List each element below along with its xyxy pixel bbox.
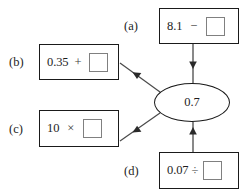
operand-c: 10: [47, 122, 59, 135]
box-label-b: (b): [9, 56, 24, 69]
expression-box-b[interactable]: 0.35 +: [39, 44, 119, 80]
arrowhead-a-to-center: [189, 62, 197, 70]
edge-d-to-center: [189, 122, 197, 152]
expression-box-c[interactable]: 10 ×: [39, 110, 119, 147]
result-value: 0.7: [154, 83, 230, 122]
box-label-c: (c): [9, 123, 23, 136]
arrowhead-center-to-c: [133, 126, 142, 133]
result-ellipse-node: 0.7: [154, 83, 230, 122]
answer-slot-a[interactable]: [206, 17, 225, 36]
box-label-a: (a): [124, 20, 138, 33]
operand-a: 8.1: [167, 20, 182, 33]
box-label-d: (d): [124, 165, 139, 178]
arrowhead-d-to-center: [189, 127, 197, 135]
plus-operator-b: +: [74, 56, 81, 69]
divide-operator-d: ÷: [191, 164, 198, 177]
minus-operator-a: −: [190, 20, 197, 33]
arrowhead-center-to-b: [133, 72, 142, 79]
operand-d: 0.07: [167, 164, 188, 177]
edge-a-to-center: [189, 44, 197, 83]
answer-slot-d[interactable]: [203, 161, 222, 180]
expression-box-d[interactable]: 0.07 ÷: [159, 152, 239, 189]
expression-diagram: (a) 8.1 − (b) 0.35 + (c) 10 × (d) 0.07 ÷: [0, 0, 244, 196]
expression-box-a[interactable]: 8.1 −: [159, 8, 239, 44]
answer-slot-c[interactable]: [83, 119, 102, 138]
operand-b: 0.35: [47, 56, 68, 69]
multiply-operator-c: ×: [67, 122, 74, 135]
answer-slot-b[interactable]: [89, 53, 108, 72]
